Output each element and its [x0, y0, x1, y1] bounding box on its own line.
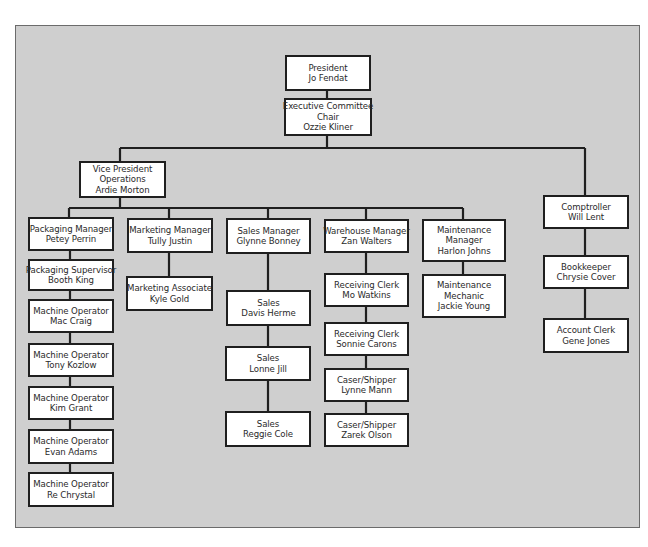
node-machine-operator: Machine Operator Evan Adams [28, 429, 114, 464]
node-title: Chair [317, 112, 339, 123]
node-machine-operator: Machine Operator Re Chrystal [28, 472, 114, 507]
node-title: Sales [257, 298, 279, 309]
node-receiving-clerk: Receiving Clerk Mo Watkins [324, 273, 409, 307]
node-title: Caser/Shipper [337, 420, 396, 431]
node-machine-operator: Machine Operator Kim Grant [28, 386, 114, 420]
node-packaging-supervisor: Packaging Supervisor Booth King [28, 259, 114, 291]
node-marketing-associate: Marketing Associate Kyle Gold [126, 276, 213, 311]
node-person: Zan Walters [341, 236, 392, 247]
node-title: Account Clerk [557, 325, 615, 336]
node-title: Sales [257, 419, 279, 430]
node-person: Mo Watkins [342, 290, 390, 301]
node-title: Packaging Manager [30, 224, 112, 235]
node-person: Petey Perrin [46, 234, 96, 245]
node-vp-operations: Vice President Operations Ardie Morton [79, 161, 166, 198]
node-person: Gene Jones [562, 336, 609, 347]
node-title: Machine Operator [33, 306, 109, 317]
node-person: Jackie Young [438, 301, 490, 312]
org-chart-canvas: President Jo Fendat Executive Committee … [0, 0, 648, 547]
node-title: Mechanic [444, 291, 484, 302]
node-person: Davis Herme [241, 308, 295, 319]
node-person: Zarek Olson [341, 430, 392, 441]
node-sales: Sales Lonne Jill [225, 346, 311, 381]
node-person: Tully Justin [148, 236, 192, 247]
node-sales-manager: Sales Manager Glynne Bonney [226, 218, 311, 254]
node-account-clerk: Account Clerk Gene Jones [543, 318, 629, 353]
node-person: Kyle Gold [150, 294, 189, 305]
node-title: Caser/Shipper [337, 375, 396, 386]
node-person: Jo Fendat [309, 73, 348, 84]
node-packaging-manager: Packaging Manager Petey Perrin [28, 217, 114, 251]
node-comptroller: Comptroller Will Lent [543, 195, 629, 229]
node-title: Machine Operator [33, 479, 109, 490]
node-president: President Jo Fendat [285, 55, 371, 91]
node-person: Harlon Johns [437, 246, 490, 257]
node-person: Mac Craig [50, 316, 92, 327]
node-title: Machine Operator [33, 350, 109, 361]
node-title: Packaging Supervisor [26, 265, 116, 276]
node-title: Marketing Manager [129, 225, 211, 236]
node-person: Re Chrystal [47, 490, 95, 501]
node-title: Sales [257, 353, 279, 364]
node-caser-shipper: Caser/Shipper Zarek Olson [324, 413, 409, 447]
node-bookkeeper: Bookkeeper Chrysie Cover [543, 255, 629, 289]
node-person: Sonnie Carons [336, 339, 397, 350]
node-person: Kim Grant [50, 403, 93, 414]
node-person: Ardie Morton [95, 185, 149, 196]
node-maintenance-manager: Maintenance Manager Harlon Johns [422, 219, 506, 262]
node-caser-shipper: Caser/Shipper Lynne Mann [324, 368, 409, 402]
node-maintenance-mechanic: Maintenance Mechanic Jackie Young [422, 274, 506, 318]
node-person: Evan Adams [45, 447, 97, 458]
node-title: Machine Operator [33, 436, 109, 447]
node-person: Lynne Mann [341, 385, 392, 396]
node-sales: Sales Davis Herme [226, 290, 311, 326]
node-person: Lonne Jill [249, 364, 287, 375]
node-title: Manager [446, 235, 483, 246]
node-machine-operator: Machine Operator Tony Kozlow [28, 343, 114, 377]
node-title: Warehouse Manager [323, 226, 409, 237]
node-title: Marketing Associate [127, 283, 212, 294]
node-executive-committee-chair: Executive Committee Chair Ozzie Kliner [284, 98, 372, 136]
node-title: Receiving Clerk [334, 329, 399, 340]
node-title: Maintenance [437, 280, 491, 291]
node-title: Maintenance [437, 225, 491, 236]
node-sales: Sales Reggie Cole [225, 411, 311, 447]
node-title: Machine Operator [33, 393, 109, 404]
node-person: Will Lent [568, 212, 604, 223]
node-person: Chrysie Cover [557, 272, 616, 283]
node-title: Vice President [93, 164, 153, 175]
node-receiving-clerk: Receiving Clerk Sonnie Carons [324, 322, 409, 356]
node-title: Operations [99, 174, 145, 185]
node-title: President [308, 63, 347, 74]
node-title: Bookkeeper [561, 262, 611, 273]
node-person: Glynne Bonney [236, 236, 300, 247]
node-title: Receiving Clerk [334, 280, 399, 291]
node-machine-operator: Machine Operator Mac Craig [28, 299, 114, 333]
node-title: Comptroller [561, 202, 611, 213]
node-person: Booth King [48, 275, 94, 286]
node-person: Tony Kozlow [46, 360, 97, 371]
node-title: Executive Committee [283, 101, 373, 112]
node-person: Reggie Cole [243, 429, 293, 440]
node-title: Sales Manager [238, 226, 300, 237]
node-person: Ozzie Kliner [303, 122, 353, 133]
node-warehouse-manager: Warehouse Manager Zan Walters [324, 219, 409, 253]
node-marketing-manager: Marketing Manager Tully Justin [127, 218, 213, 253]
